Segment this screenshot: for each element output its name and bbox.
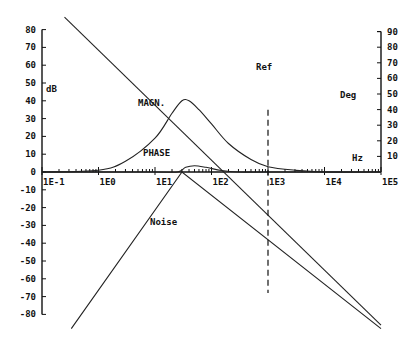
x-tick-label: 1E2 [213, 177, 229, 187]
left-tick-label: 70 [25, 42, 36, 52]
left-tick-label: -50 [20, 256, 36, 266]
magn-curve [42, 99, 381, 172]
left-tick-label: 0 [31, 167, 36, 177]
left-tick-label: 40 [25, 96, 36, 106]
left-tick-label: -10 [20, 185, 36, 195]
x-tick-label: 1E1 [156, 177, 172, 187]
noise-label: Noise [150, 217, 178, 227]
x-tick-label: 1E-1 [43, 177, 65, 187]
left-tick-label: -70 [20, 292, 36, 302]
x-tick-label: 1E3 [269, 177, 285, 187]
right-tick-label: 80 [387, 42, 398, 52]
x-tick-label: 1E5 [382, 177, 398, 187]
right-deg-axis: 908070605040302010 [377, 27, 398, 172]
left-tick-label: -20 [20, 203, 36, 213]
right-tick-label: 20 [387, 136, 398, 146]
deg-axis-label: Deg [340, 90, 356, 100]
x-tick-label: 1E0 [100, 177, 116, 187]
left-tick-label: 60 [25, 60, 36, 70]
right-tick-label: 70 [387, 58, 398, 68]
noise-curve [71, 172, 381, 329]
ref-label: Ref [256, 62, 272, 72]
falling-line-curve [64, 17, 381, 325]
left-tick-label: -80 [20, 309, 36, 319]
right-tick-label: 90 [387, 27, 398, 37]
phase-label: PHASE [143, 148, 170, 158]
left-tick-label: 80 [25, 25, 36, 35]
right-tick-label: 30 [387, 120, 398, 130]
left-tick-label: 20 [25, 131, 36, 141]
left-tick-label: -30 [20, 220, 36, 230]
left-tick-label: -40 [20, 238, 36, 248]
left-tick-label: 50 [25, 78, 36, 88]
left-tick-label: -60 [20, 274, 36, 284]
bode-chart: 80706050403020100-10-20-30-40-50-60-70-8… [0, 0, 420, 343]
x-tick-label: 1E4 [326, 177, 343, 187]
hz-axis-label: Hz [352, 153, 363, 163]
right-tick-label: 10 [387, 151, 398, 161]
left-tick-label: 30 [25, 114, 36, 124]
magn-label: MAGN. [138, 98, 165, 108]
left-tick-label: 10 [25, 149, 36, 159]
right-tick-label: 50 [387, 89, 398, 99]
right-tick-label: 40 [387, 105, 398, 115]
right-tick-label: 60 [387, 73, 398, 83]
db-axis-label: dB [46, 84, 57, 94]
